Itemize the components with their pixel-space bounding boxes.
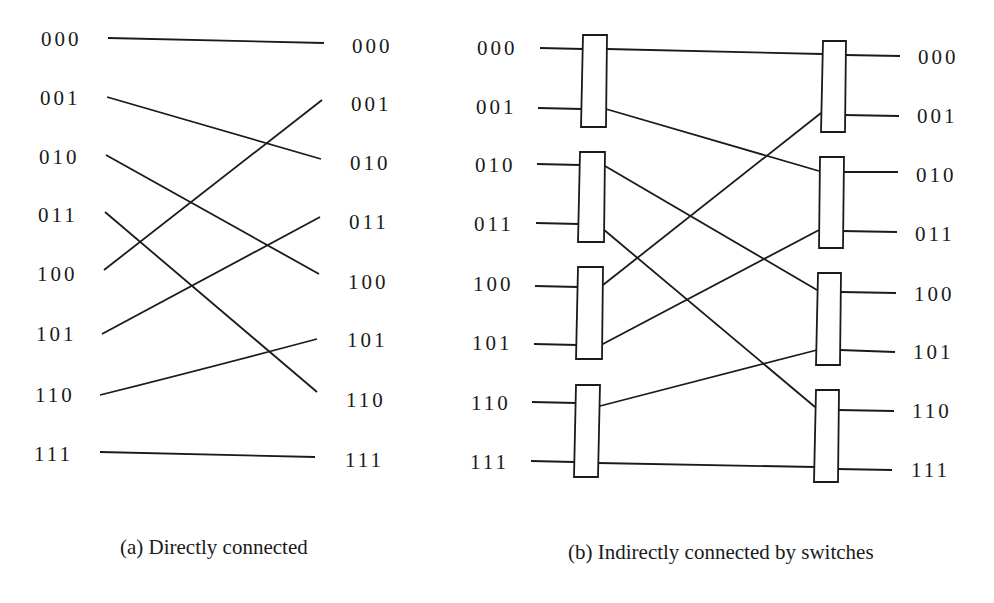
input-wire	[536, 223, 579, 224]
switch-box	[819, 157, 844, 248]
switch-box	[814, 390, 839, 482]
switch-box	[576, 267, 603, 359]
wire-001-010	[107, 97, 321, 159]
switch-box	[578, 152, 605, 242]
output-wire	[844, 115, 899, 116]
input-wire	[535, 286, 578, 287]
input-wire	[531, 461, 574, 462]
wire-101-011	[601, 230, 819, 345]
node-label: 111	[345, 448, 384, 472]
wire-000-000	[108, 38, 324, 43]
panel-a-wires	[100, 38, 324, 457]
node-label: 110	[912, 399, 952, 423]
node-label: 011	[474, 212, 514, 236]
node-label: 100	[914, 282, 955, 306]
node-label: 111	[34, 442, 73, 466]
panel-b-indirectly-connected: 000 001 010 011 100 101 110 111 000 001 …	[470, 35, 959, 564]
node-label: 001	[351, 92, 392, 116]
node-label: 010	[475, 153, 516, 177]
output-wire	[841, 292, 896, 293]
node-label: 011	[915, 222, 955, 246]
switch-box	[816, 273, 841, 365]
switch-box	[581, 35, 607, 127]
output-wire	[842, 231, 897, 232]
node-label: 000	[41, 27, 82, 51]
input-wire	[534, 344, 577, 345]
node-label: 110	[471, 391, 511, 415]
wire-010-100	[106, 155, 319, 274]
wire-110-101	[100, 339, 317, 395]
panel-b-right-labels: 000 001 010 011 100 101 110 111	[911, 45, 959, 482]
wire-100-001	[104, 100, 322, 270]
node-label: 010	[916, 163, 957, 187]
output-wire	[840, 350, 895, 352]
node-label: 011	[349, 210, 389, 234]
node-label: 000	[352, 34, 393, 58]
wire-111-111	[100, 452, 315, 457]
interconnection-figure: 000 001 010 011 100 101 110 111 000 001 …	[0, 0, 994, 603]
node-label: 010	[39, 145, 80, 169]
switch-box	[574, 385, 600, 477]
wire-111-111	[598, 463, 815, 467]
node-label: 100	[37, 262, 78, 286]
wire-101-011	[102, 217, 320, 334]
node-label: 010	[350, 151, 391, 175]
node-label: 110	[35, 383, 75, 407]
switch-box	[821, 41, 846, 132]
panel-a-right-labels: 000 001 010 011 100 101 110 111	[345, 34, 393, 472]
panel-a-left-labels: 000 001 010 011 100 101 110 111	[34, 27, 82, 466]
panel-b-interstage-wires	[598, 49, 822, 467]
input-wire	[538, 108, 582, 109]
output-wire	[837, 469, 892, 470]
input-wire	[537, 164, 580, 165]
panel-b-left-labels: 000 001 010 011 100 101 110 111	[470, 36, 518, 474]
node-label: 101	[347, 328, 388, 352]
node-label: 100	[348, 270, 389, 294]
input-wire	[540, 48, 583, 49]
node-label: 100	[473, 272, 514, 296]
wire-100-001	[603, 113, 821, 285]
node-label: 111	[911, 458, 950, 482]
node-label: 101	[36, 322, 77, 346]
wire-010-100	[605, 166, 817, 290]
wire-110-101	[600, 350, 817, 406]
node-label: 101	[913, 340, 954, 364]
wire-011-110	[603, 229, 815, 407]
panel-b-output-stubs	[837, 55, 900, 470]
node-label: 101	[472, 331, 513, 355]
wire-000-000	[607, 49, 822, 54]
panel-a-caption: (a) Directly connected	[120, 535, 308, 559]
output-wire	[845, 55, 900, 56]
node-label: 111	[470, 450, 509, 474]
panel-a-directly-connected: 000 001 010 011 100 101 110 111 000 001 …	[34, 27, 393, 559]
input-wire	[532, 402, 576, 403]
node-label: 110	[346, 388, 386, 412]
node-label: 011	[38, 203, 78, 227]
node-label: 001	[917, 104, 958, 128]
panel-b-caption: (b) Indirectly connected by switches	[568, 540, 874, 564]
wire-011-110	[105, 212, 317, 392]
node-label: 001	[476, 95, 517, 119]
node-label: 000	[477, 36, 518, 60]
node-label: 001	[40, 86, 81, 110]
node-label: 000	[918, 45, 959, 69]
switch-column-2	[814, 41, 846, 482]
output-wire	[838, 410, 894, 411]
switch-column-1	[574, 35, 607, 477]
